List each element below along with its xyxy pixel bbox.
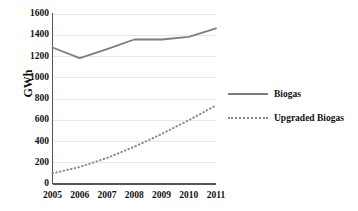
x-tick-label: 2005: [43, 190, 62, 200]
x-tick-label: 2006: [70, 190, 89, 200]
legend-swatch-solid-icon: [228, 89, 268, 99]
legend-label-upgraded-biogas: Upgraded Biogas: [274, 113, 344, 123]
legend-swatch-dotted-icon: [228, 113, 268, 123]
legend-item-upgraded-biogas[interactable]: Upgraded Biogas: [228, 106, 358, 130]
chart-legend: Biogas Upgraded Biogas: [228, 82, 358, 130]
legend-item-biogas[interactable]: Biogas: [228, 82, 358, 106]
x-tick-label: 2007: [98, 190, 117, 200]
x-tick-label: 2009: [152, 190, 171, 200]
series-layer: [53, 28, 217, 173]
x-tick-label: 2011: [207, 190, 225, 200]
legend-label-biogas: Biogas: [274, 89, 301, 99]
x-tick-label: 2010: [179, 190, 198, 200]
biogas-line-chart: GWh 02004006008001000120014001600 200520…: [0, 0, 358, 211]
x-tick-label: 2008: [125, 190, 144, 200]
